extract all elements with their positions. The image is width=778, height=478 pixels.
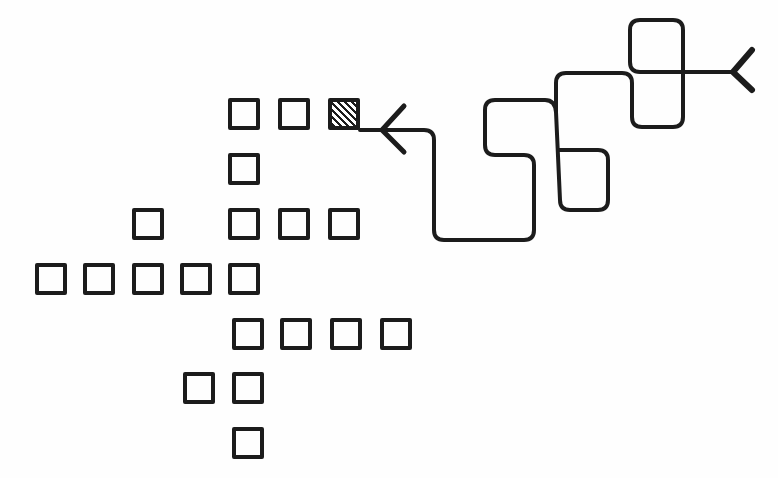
diagram-canvas	[0, 0, 778, 478]
connector-path-layer	[0, 0, 778, 478]
square-cell	[380, 318, 412, 350]
square-cell	[328, 208, 360, 240]
square-cell	[232, 427, 264, 459]
square-cell	[232, 372, 264, 404]
hatched-square-cell	[328, 98, 360, 130]
square-cell	[330, 318, 362, 350]
square-cell	[132, 208, 164, 240]
square-cell	[228, 98, 260, 130]
fork-terminal-icon	[733, 50, 752, 90]
square-cell	[232, 318, 264, 350]
square-cell	[278, 208, 310, 240]
winding-connector-path	[360, 20, 733, 240]
square-cell	[228, 208, 260, 240]
square-cell	[280, 318, 312, 350]
square-cell	[180, 263, 212, 295]
square-cell	[183, 372, 215, 404]
square-cell	[132, 263, 164, 295]
square-cell	[278, 98, 310, 130]
square-cell	[35, 263, 67, 295]
square-cell	[83, 263, 115, 295]
square-cell	[228, 263, 260, 295]
square-cell	[228, 153, 260, 185]
